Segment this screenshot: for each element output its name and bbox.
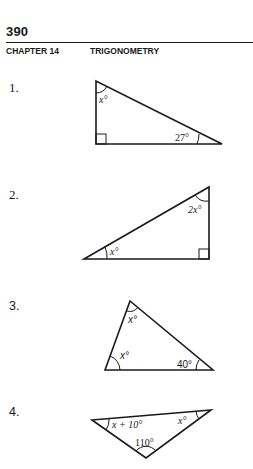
t4-right-angle-label: x°	[177, 415, 186, 426]
angle-arc	[197, 134, 199, 144]
t3-left-angle-label: x°	[119, 350, 129, 361]
angle-arc	[195, 195, 209, 201]
t4-bottom-angle-label: 110°	[135, 437, 154, 448]
triangle-4	[92, 410, 211, 458]
angle-arc	[196, 360, 199, 370]
t3-top-angle-label: x°	[127, 314, 137, 325]
t3-right-angle-label: 40°	[177, 359, 192, 370]
triangle-1	[96, 81, 222, 144]
t1-right-angle-label: 27°	[175, 132, 189, 143]
angle-arc	[127, 307, 138, 311]
t4-left-angle-label: x + 10°	[111, 419, 142, 430]
angle-arc	[105, 247, 107, 259]
t1-top-angle-label: x°	[98, 94, 107, 105]
t2-top-angle-label: 2x°	[188, 204, 201, 215]
triangle-2	[84, 187, 209, 259]
angle-arc	[196, 411, 199, 419]
angle-arc	[110, 356, 120, 370]
figures-canvas: x° 27° 2x° x° x° x° 40° x + 10° x° 110°	[0, 0, 253, 469]
right-angle-marker	[96, 134, 106, 144]
angle-arc	[106, 419, 109, 430]
angle-arc	[96, 86, 107, 93]
right-angle-marker	[199, 249, 209, 259]
t2-left-angle-label: x°	[109, 246, 118, 257]
